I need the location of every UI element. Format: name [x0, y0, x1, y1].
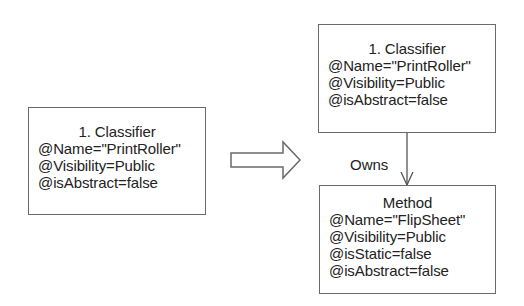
method-attr-visibility: @Visibility=Public	[329, 228, 495, 245]
method-title: Method	[329, 194, 495, 211]
target-classifier-attr-abstract: @isAbstract=false	[328, 91, 495, 108]
target-classifier-title: 1. Classifier	[328, 40, 495, 57]
source-classifier-attr-abstract: @isAbstract=false	[38, 174, 205, 191]
target-classifier-attr-visibility: @Visibility=Public	[328, 74, 495, 91]
source-classifier-title: 1. Classifier	[38, 123, 205, 140]
target-classifier-box: 1. Classifier @Name="PrintRoller" @Visib…	[318, 24, 496, 133]
source-classifier-box: 1. Classifier @Name="PrintRoller" @Visib…	[28, 107, 206, 215]
method-box: Method @Name="FlipSheet" @Visibility=Pub…	[319, 185, 496, 294]
method-attr-abstract: @isAbstract=false	[329, 262, 495, 279]
source-classifier-attr-visibility: @Visibility=Public	[38, 157, 205, 174]
method-attr-static: @isStatic=false	[329, 245, 495, 262]
transform-arrow	[231, 142, 300, 178]
owns-relation-label: Owns	[350, 156, 388, 173]
target-classifier-attr-name: @Name="PrintRoller"	[328, 57, 495, 74]
source-classifier-attr-name: @Name="PrintRoller"	[38, 140, 205, 157]
method-attr-name: @Name="FlipSheet"	[329, 211, 495, 228]
